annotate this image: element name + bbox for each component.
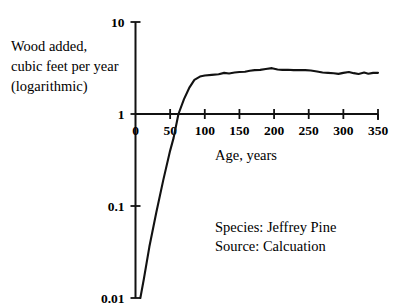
x-axis-title: Age, years	[215, 145, 277, 165]
chart-figure: Wood added, cubic feet per year (logarit…	[0, 0, 406, 308]
annotation-species: Species: Jeffrey Pine	[215, 218, 336, 237]
x-tick-label-150: 150	[229, 123, 250, 138]
x-tick-label-300: 300	[333, 123, 354, 138]
y-tick-label-0.1: 0.1	[108, 199, 125, 214]
x-tick-label-350: 350	[368, 123, 389, 138]
x-tick-label-200: 200	[264, 123, 285, 138]
y-axis-title-line-1: Wood added,	[11, 36, 118, 56]
x-tick-label-250: 250	[299, 123, 320, 138]
chart-annotation: Species: Jeffrey Pine Source: Calcuation	[215, 218, 336, 256]
x-tick-label-100: 100	[195, 123, 216, 138]
data-line-1	[140, 68, 378, 298]
annotation-source: Source: Calcuation	[215, 237, 336, 256]
y-axis-title-line-3: (logarithmic)	[11, 76, 118, 96]
y-tick-label-1: 1	[118, 107, 125, 122]
y-tick-label-0.01: 0.01	[101, 291, 125, 306]
y-axis-title-line-2: cubic feet per year	[11, 56, 118, 76]
y-axis-title: Wood added, cubic feet per year (logarit…	[11, 36, 118, 96]
y-tick-label-10: 10	[111, 15, 125, 30]
data-series-group	[140, 68, 378, 298]
x-tick-label-0: 0	[132, 123, 139, 138]
